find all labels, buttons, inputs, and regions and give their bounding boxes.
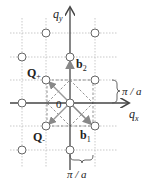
pi-over-a-bottom: π / a: [67, 168, 87, 180]
qx-label: qx: [129, 107, 139, 123]
origin-label: 0: [56, 98, 62, 110]
brace-bottom: [70, 155, 93, 163]
b1-label: b1: [80, 128, 91, 144]
b2-label: b2: [76, 57, 87, 73]
pi-over-a-right: π / a: [122, 85, 142, 97]
brace-right: [112, 80, 120, 103]
reciprocal-lattice-diagram: qy qx 0 b2 b1 Q+ Q- π / a π / a: [0, 0, 152, 190]
q-plus-label: Q+: [27, 66, 41, 81]
qy-label: qy: [53, 7, 63, 23]
grid-lines: [10, 18, 118, 168]
q-minus-label: Q-: [33, 130, 45, 145]
